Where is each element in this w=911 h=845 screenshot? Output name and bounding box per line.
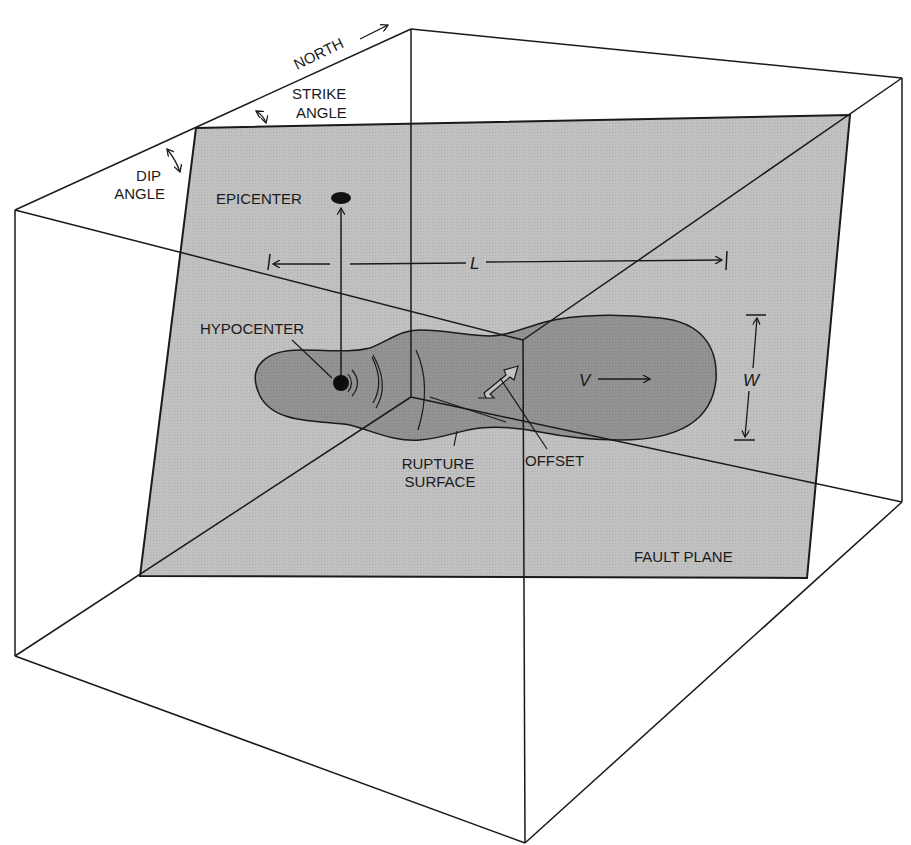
velocity-label: V <box>579 371 592 390</box>
box-top-back-edge <box>411 29 902 78</box>
north-label: NORTH <box>291 34 346 73</box>
strike-angle-indicator: STRIKE ANGLE <box>256 85 350 123</box>
length-tick-right <box>726 251 727 270</box>
width-label: W <box>743 371 761 390</box>
strike-angle-label: STRIKE ANGLE <box>292 85 350 121</box>
box-bottom-front-left <box>15 656 525 843</box>
length-label: L <box>470 254 479 273</box>
fault-diagram: NORTH STRIKE ANGLE DIP ANGLE EPICENTER L… <box>0 0 911 845</box>
hypocenter-label: HYPOCENTER <box>200 320 304 337</box>
north-indicator: NORTH <box>291 25 388 73</box>
hypocenter-marker <box>333 375 349 391</box>
rupture-surface-label: RUPTURE SURFACE <box>402 455 479 490</box>
double-arrow-arc-icon <box>256 111 266 123</box>
fault-plane-label: FAULT PLANE <box>634 548 733 565</box>
dip-angle-label: DIP ANGLE <box>114 167 165 202</box>
offset-label: OFFSET <box>525 452 584 469</box>
arrow-right-icon <box>360 25 388 39</box>
dip-angle-line1: DIP <box>136 167 161 184</box>
epicenter-label: EPICENTER <box>216 190 302 207</box>
dip-angle-indicator: DIP ANGLE <box>114 149 180 202</box>
rupture-surface-line2: SURFACE <box>405 473 476 490</box>
epicenter-marker <box>331 192 351 204</box>
double-arrow-arc-icon <box>167 149 180 172</box>
strike-angle-line1: STRIKE <box>292 85 346 102</box>
dip-angle-line2: ANGLE <box>114 185 165 202</box>
rupture-surface-line1: RUPTURE <box>402 455 475 472</box>
strike-angle-line2: ANGLE <box>296 104 347 121</box>
